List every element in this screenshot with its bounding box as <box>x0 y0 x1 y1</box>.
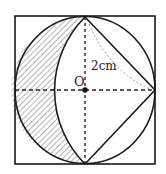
dotted-radius-arc <box>89 24 152 90</box>
radius-label: 2cm <box>91 59 117 73</box>
center-label: O <box>74 74 85 89</box>
geometry-diagram: O 2cm <box>0 0 166 174</box>
